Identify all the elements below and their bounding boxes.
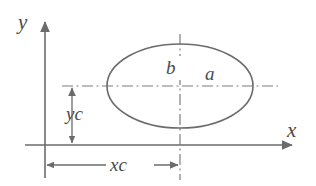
xc-dimension-label: xc bbox=[110, 155, 127, 174]
semi-major-axis-label: a bbox=[205, 64, 215, 83]
diagram-canvas bbox=[0, 0, 316, 186]
ellipse-centroid-diagram: y x b a yc xc bbox=[0, 0, 316, 186]
y-axis-label: y bbox=[18, 12, 27, 33]
x-axis-label: x bbox=[287, 120, 296, 141]
semi-minor-axis-label: b bbox=[166, 58, 176, 77]
yc-dimension-label: yc bbox=[66, 104, 83, 123]
